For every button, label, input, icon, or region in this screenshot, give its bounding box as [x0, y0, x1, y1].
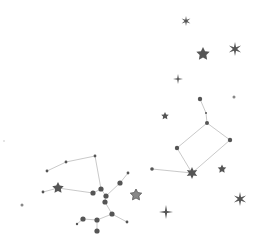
- constellation-star-dot: [76, 223, 78, 225]
- constellation-star-dot: [80, 216, 85, 221]
- constellation-line: [152, 169, 192, 173]
- star-icon: [161, 112, 169, 119]
- sparkle-icon: [173, 74, 183, 84]
- constellation-line: [106, 183, 120, 196]
- star-icon: [218, 165, 227, 173]
- sparkle-icon: [159, 205, 173, 219]
- constellation-star-dot: [175, 146, 179, 150]
- constellation-star-dot: [205, 121, 209, 125]
- constellation-star-dot: [65, 161, 68, 164]
- constellation-star-dot: [46, 170, 49, 173]
- constellation-line: [177, 148, 192, 173]
- constellation-star-dot: [228, 138, 232, 142]
- constellation-star-dot: [198, 97, 202, 101]
- constellation-star-dot: [98, 186, 103, 191]
- sparkle-icon: [229, 42, 241, 56]
- constellation-line: [207, 123, 230, 140]
- sparkle-icon: [234, 192, 246, 206]
- constellation-star-dot: [109, 211, 114, 216]
- constellation-star-dot: [126, 221, 129, 224]
- constellation-star-dot: [94, 155, 97, 158]
- constellation-star-dot: [205, 112, 207, 114]
- constellation-star-dot: [102, 199, 107, 204]
- constellation-star-dot: [127, 172, 130, 175]
- star-dot-icon: [21, 204, 24, 207]
- constellation-line: [177, 123, 207, 148]
- constellation-star-dot: [94, 228, 99, 233]
- star-dot-icon: [233, 96, 236, 99]
- constellation-star-icon: [52, 182, 63, 193]
- constellation-sky: [0, 0, 263, 250]
- constellation-star-dot: [90, 190, 95, 195]
- constellation-star-dot: [117, 180, 122, 185]
- constellation-line: [200, 99, 206, 113]
- constellation-star-dot: [103, 193, 108, 198]
- star-dot-icon: [3, 140, 5, 142]
- sparkle-icon: [182, 16, 191, 26]
- constellation-line: [47, 162, 66, 171]
- star-outline-icon: [130, 189, 141, 200]
- star-icon: [196, 47, 209, 60]
- constellation-line: [66, 156, 95, 162]
- constellation-star-dot: [94, 217, 99, 222]
- constellation-star-dot: [42, 191, 45, 194]
- constellation-line: [58, 188, 93, 193]
- constellation-star-dot: [150, 167, 154, 171]
- constellation-line: [95, 156, 101, 189]
